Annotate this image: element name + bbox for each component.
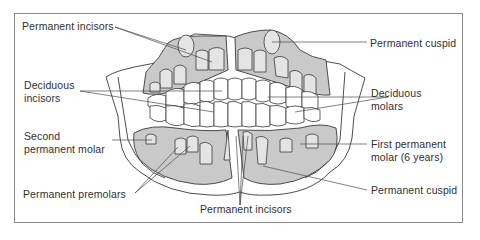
label-permanent-premolars: Permanent premolars [23, 188, 126, 201]
label-deciduous-incisors-line2: incisors [24, 92, 60, 105]
label-first-permanent-molar-line1: First permanent [371, 138, 446, 151]
label-deciduous-molars-line1: Deciduous [371, 87, 422, 100]
label-permanent-cuspid-lower: Permanent cuspid [371, 184, 457, 197]
label-permanent-incisors-upper: Permanent incisors [22, 20, 114, 33]
lower-right-bone [238, 125, 337, 184]
label-permanent-cuspid-upper: Permanent cuspid [370, 37, 456, 50]
label-permanent-incisors-lower: Permanent incisors [200, 203, 292, 216]
label-second-permanent-molar-line1: Second [24, 130, 60, 143]
label-deciduous-molars-line2: molars [371, 100, 403, 113]
label-deciduous-incisors-line1: Deciduous [24, 79, 75, 92]
label-first-permanent-molar-line2: molar (6 years) [371, 151, 443, 164]
label-second-permanent-molar-line2: permanent molar [24, 143, 105, 156]
